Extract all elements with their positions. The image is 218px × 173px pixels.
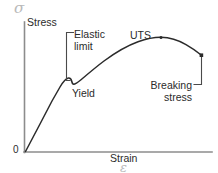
breaking-point-marker <box>200 53 204 57</box>
epsilon-symbol: ε <box>120 160 127 173</box>
y-axis-label: Stress <box>27 17 57 29</box>
sigma-symbol: σ <box>14 0 24 17</box>
elastic-limit-line-1: Elastic <box>74 28 105 40</box>
elastic-limit-leader <box>67 33 74 81</box>
breaking-stress-label: Breakingstress <box>140 79 192 103</box>
stress-strain-figure: σ Stress 0 Elasticlimit Yield UTS Breaki… <box>0 0 218 173</box>
uts-label: UTS <box>130 30 151 42</box>
breaking-stress-line-1: Breaking <box>151 79 192 91</box>
breaking-stress-line-2: stress <box>164 91 192 103</box>
uts-marker-dot <box>160 36 163 39</box>
elastic-limit-line-2: limit <box>74 40 93 52</box>
yield-label: Yield <box>72 88 95 100</box>
origin-label: 0 <box>13 144 19 156</box>
elastic-limit-label: Elasticlimit <box>74 28 105 52</box>
breaking-stress-leader <box>194 57 202 85</box>
